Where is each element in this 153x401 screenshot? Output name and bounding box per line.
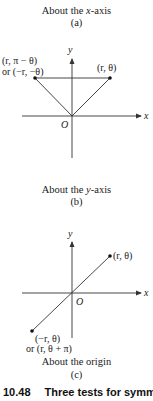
- figure-title: Three tests for symme: [45, 386, 153, 398]
- panel-c-x-axis-label: x: [144, 287, 148, 298]
- panel-b-point-right-label: (r, θ): [97, 62, 116, 73]
- panel-c-point-lower-alt-label: or (r, θ + π): [26, 343, 72, 354]
- panel-b-sublabel: (b): [0, 196, 153, 208]
- figure-number: 10.48: [3, 386, 31, 398]
- figure-caption: 10.48Three tests for symme: [3, 386, 153, 398]
- panel-c-y-axis-label: y: [68, 228, 72, 239]
- caption-text: About the: [42, 184, 86, 195]
- panel-c-point-upper-label: (r, θ): [113, 250, 132, 261]
- point-left-line2: or (−r, −θ): [2, 66, 44, 77]
- panel-b-point-left-label: (r, π − θ) or (−r, −θ): [2, 55, 44, 77]
- panel-b-y-axis-label: y: [68, 44, 72, 55]
- panel-c-caption: About the origin: [0, 356, 153, 368]
- point-left-line1: (r, π − θ): [2, 55, 44, 66]
- panel-b-reflection-triangle: [33, 76, 112, 116]
- panel-b-origin-label: O: [61, 119, 68, 130]
- panel-b-x-axis-label: x: [144, 110, 148, 121]
- panel-c-sublabel: (c): [0, 369, 153, 381]
- panel-c-origin-line: [30, 254, 112, 333]
- panel-c-origin-label: O: [76, 296, 83, 307]
- panel-b-caption: About the y-axis: [0, 184, 153, 196]
- caption-text: -axis: [91, 184, 111, 195]
